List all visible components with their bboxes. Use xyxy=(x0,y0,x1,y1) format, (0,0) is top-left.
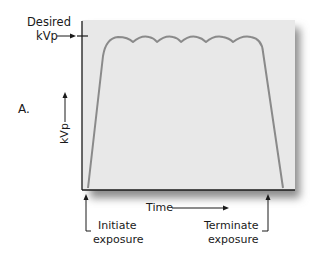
arrowhead-icon xyxy=(223,206,229,211)
y-axis-label: kVp xyxy=(58,123,71,144)
initiate-label-line1: Initiate xyxy=(98,219,136,232)
desired-label-line1: Desired xyxy=(27,16,71,29)
x-axis-label: Time xyxy=(146,201,173,214)
arrowhead-icon xyxy=(63,92,68,98)
initiate-arrow xyxy=(86,198,91,231)
terminate-arrow xyxy=(262,198,268,231)
desired-label-line2: kVp xyxy=(36,30,58,43)
initiate-label-line2: exposure xyxy=(93,233,144,246)
panel-label: A. xyxy=(18,103,30,116)
terminate-label-line2: exposure xyxy=(208,233,259,246)
arrowhead-icon xyxy=(84,194,89,200)
arrowhead-icon xyxy=(70,34,76,39)
terminate-label-line1: Terminate xyxy=(204,219,259,232)
chart-panel xyxy=(82,20,295,190)
